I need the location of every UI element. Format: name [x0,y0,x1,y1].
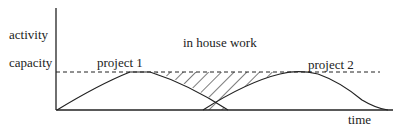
in-house-work-label: in house work [183,36,257,49]
project-2-label: project 2 [308,58,354,71]
in-house-work-area [140,60,300,120]
capacity-label: capacity [9,56,52,69]
x-axis-label: time [348,113,371,126]
project-1-label: project 1 [97,56,143,69]
y-axis-label: activity [9,28,48,41]
